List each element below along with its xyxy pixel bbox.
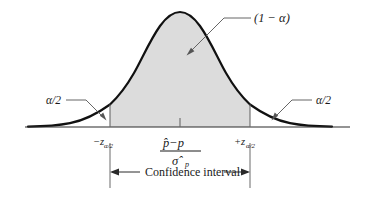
svg-text:−z: −z bbox=[93, 136, 104, 147]
svg-text:α/2: α/2 bbox=[246, 142, 256, 150]
ci-arrowhead-right bbox=[241, 169, 250, 176]
left-critical-value-label: −z α/2 bbox=[93, 136, 114, 150]
ci-arrowhead-left bbox=[110, 169, 119, 176]
alpha-half-left-arrowhead bbox=[100, 112, 107, 120]
alpha-half-right-leader-line bbox=[275, 100, 312, 117]
right-critical-value-label: +z α/2 bbox=[234, 136, 256, 150]
svg-text:+z: +z bbox=[234, 136, 245, 147]
svg-text:p̂−p: p̂−p bbox=[162, 136, 184, 150]
alpha-half-right-label: α/2 bbox=[316, 94, 331, 106]
alpha-half-left-label: α/2 bbox=[46, 94, 61, 106]
shaded-confidence-region bbox=[110, 12, 250, 127]
confidence-level-label: (1 − α) bbox=[254, 11, 290, 25]
alpha-half-left-leader-line bbox=[66, 100, 103, 117]
svg-text:α/2: α/2 bbox=[104, 142, 114, 150]
normal-distribution-confidence-interval-figure: (1 − α) α/2 α/2 −z α/2 +z α/2 p̂−p σ̂ p … bbox=[0, 0, 371, 198]
confidence-interval-caption: Confidence interval bbox=[145, 165, 241, 179]
